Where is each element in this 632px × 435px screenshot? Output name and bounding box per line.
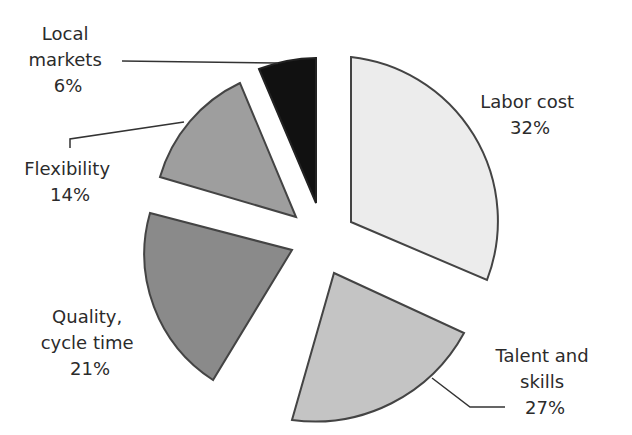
leader-talent	[432, 378, 505, 407]
label-talent-skills: Talent and skills 27%	[495, 345, 595, 418]
label-local-markets: Local markets 6%	[29, 23, 108, 96]
label-flexibility: Flexibility 14%	[24, 158, 116, 205]
label-quality-cycle-time: Quality, cycle time 21%	[41, 306, 140, 379]
leader-local-markets	[122, 61, 278, 63]
leader-flexibility	[70, 122, 184, 148]
slice-quality-cycle-time	[144, 213, 292, 380]
chart-canvas: Local markets 6% Flexibility 14% Labor c…	[0, 0, 632, 435]
slice-talent-skills	[292, 273, 464, 422]
pie-chart: Local markets 6% Flexibility 14% Labor c…	[0, 0, 632, 435]
slice-labor-cost	[351, 57, 498, 280]
label-labor-cost: Labor cost 32%	[480, 91, 580, 138]
